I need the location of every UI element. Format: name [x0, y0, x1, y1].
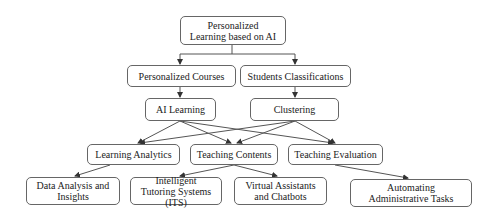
- node-teaching-evaluation: Teaching Evaluation: [288, 144, 383, 165]
- node-automating-tasks: Automating Administrative Tasks: [350, 179, 472, 207]
- node-personalized-courses: Personalized Courses: [127, 65, 236, 87]
- node-ai-learning: AI Learning: [145, 98, 216, 121]
- node-teaching-contents: Teaching Contents: [190, 144, 278, 165]
- node-clustering: Clustering: [250, 98, 339, 121]
- node-virtual-assistants: Virtual Assistants and Chatbots: [234, 177, 327, 205]
- node-learning-analytics: Learning Analytics: [87, 144, 180, 165]
- node-its: Intelligent Tutoring Systems (ITS): [130, 177, 222, 205]
- node-students-classifications: Students Classifications: [240, 65, 351, 87]
- node-root: Personalized Learning based on AI: [180, 16, 286, 45]
- node-data-analysis: Data Analysis and Insights: [26, 177, 120, 205]
